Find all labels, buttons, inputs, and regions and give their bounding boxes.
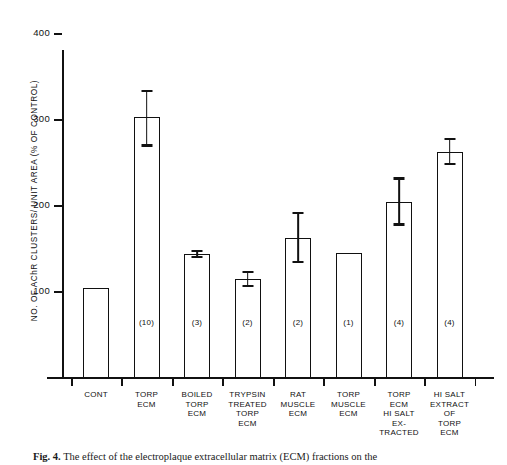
x-category-line: TRACTED (371, 428, 427, 438)
x-category-label: TORPMUSCLEECM (321, 390, 377, 419)
error-bar-cap-bottom (394, 223, 405, 225)
x-category-line: OF (422, 409, 478, 419)
x-category-label: CONT (68, 390, 124, 400)
x-category-line: TORP (422, 419, 478, 429)
error-bar-stem (297, 212, 299, 264)
y-tick-label: 200 (16, 199, 50, 210)
chart-plot-area: NO. OF AChR CLUSTERS/ UNIT AREA (% OF CO… (0, 0, 507, 465)
error-bar (444, 138, 456, 166)
x-category-line: ECM (371, 400, 427, 410)
x-category-line: EXTRACT (422, 400, 478, 410)
error-bar (191, 250, 203, 259)
y-tick-mark (54, 205, 62, 207)
error-bar-cap-top (242, 271, 253, 273)
x-category-line: RAT (270, 390, 326, 400)
x-category-line: CONT (68, 390, 124, 400)
x-tick-mark (324, 377, 326, 386)
bar (235, 279, 261, 377)
x-category-line: MUSCLE (270, 400, 326, 410)
error-bar-stem (398, 177, 400, 225)
x-category-line: BOILED (169, 390, 225, 400)
bar-n-label: (4) (379, 318, 419, 327)
x-category-label: RATMUSCLEECM (270, 390, 326, 419)
bar (386, 202, 412, 377)
error-bar (393, 177, 405, 225)
bar-n-label: (3) (177, 318, 217, 327)
x-category-label: TORPECM (119, 390, 175, 409)
x-category-line: TORP (220, 409, 276, 419)
error-bar-stem (146, 90, 148, 147)
error-bar-cap-bottom (293, 261, 304, 263)
y-tick-mark (54, 291, 62, 293)
x-category-line: EX- (371, 419, 427, 429)
error-bar-stem (449, 138, 451, 166)
x-category-line: HI SALT (422, 390, 478, 400)
y-tick-label: 300 (16, 113, 50, 124)
error-bar (141, 90, 153, 147)
x-tick-mark (273, 377, 275, 386)
bar (83, 288, 109, 377)
x-tick-mark (223, 377, 225, 386)
x-tick-mark (122, 377, 124, 386)
error-bar (292, 212, 304, 264)
bar (134, 117, 160, 377)
x-category-line: TORP (119, 390, 175, 400)
error-bar-cap-bottom (444, 163, 455, 165)
caption-text: The effect of the electroplaque extracel… (63, 451, 377, 462)
x-category-line: TORP (321, 390, 377, 400)
x-category-line: HI SALT (371, 409, 427, 419)
x-category-line: ECM (270, 409, 326, 419)
x-category-line: ECM (169, 409, 225, 419)
figure-caption: Fig. 4. The effect of the electroplaque … (33, 450, 479, 463)
x-category-label: BOILEDTORPECM (169, 390, 225, 419)
bar (437, 152, 463, 377)
x-category-line: ECM (422, 428, 478, 438)
error-bar (242, 271, 254, 286)
error-bar-cap-bottom (242, 285, 253, 287)
error-bar-cap-top (394, 177, 405, 179)
x-category-line: ECM (220, 419, 276, 429)
x-category-line: ECM (119, 400, 175, 410)
error-bar-cap-top (293, 212, 304, 214)
bar-n-label: (1) (329, 318, 369, 327)
x-category-label: TORPECMHI SALTEX-TRACTED (371, 390, 427, 438)
error-bar-cap-top (444, 138, 455, 140)
y-tick-mark (54, 119, 62, 121)
x-category-line: MUSCLE (321, 400, 377, 410)
bar-n-label: (4) (430, 318, 470, 327)
error-bar-cap-bottom (141, 144, 152, 146)
x-category-line: TRYPSIN (220, 390, 276, 400)
error-bar-cap-bottom (192, 256, 203, 258)
x-tick-mark (172, 377, 174, 386)
bar-n-label: (2) (228, 318, 268, 327)
y-tick-label: 100 (16, 285, 50, 296)
bar (184, 254, 210, 377)
x-tick-mark (374, 377, 376, 386)
x-tick-mark (71, 377, 73, 386)
bar-n-label: (2) (278, 318, 318, 327)
bar (336, 253, 362, 377)
x-category-line: ECM (321, 409, 377, 419)
bar-n-label: (10) (127, 318, 167, 327)
x-tick-mark (425, 377, 427, 386)
error-bar-cap-top (192, 250, 203, 252)
error-bar-cap-top (141, 90, 152, 92)
x-category-line: TREATED (220, 400, 276, 410)
caption-label: Fig. 4. (33, 451, 61, 462)
x-tick-mark (475, 377, 477, 386)
x-category-line: TORP (169, 400, 225, 410)
x-category-label: TRYPSINTREATEDTORPECM (220, 390, 276, 428)
figure-container: NO. OF AChR CLUSTERS/ UNIT AREA (% OF CO… (0, 0, 507, 465)
y-tick-label: 400 (16, 27, 50, 38)
x-category-label: HI SALTEXTRACTOFTORPECM (422, 390, 478, 438)
x-category-line: TORP (371, 390, 427, 400)
y-tick-mark (54, 33, 62, 35)
